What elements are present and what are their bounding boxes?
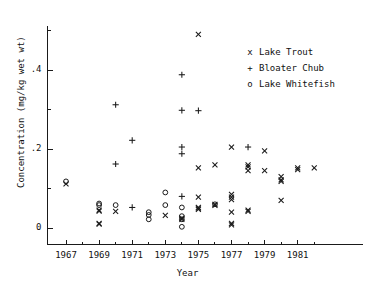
scatter-chart: Concentration (mg/kg wet wt) Year 0.2.4 … bbox=[0, 0, 375, 289]
chart-legend: x Lake Trout + Bloater Chub o Lake White… bbox=[244, 44, 335, 92]
legend-label-lake-trout: Lake Trout bbox=[259, 44, 313, 60]
series-lake-whitefish bbox=[64, 179, 218, 229]
y-tick-label: 0 bbox=[18, 223, 42, 232]
x-tick-label: 1981 bbox=[278, 251, 318, 260]
legend-item-lake-trout: x Lake Trout bbox=[244, 44, 335, 60]
series-bloater-chub bbox=[113, 72, 252, 211]
y-ticks bbox=[48, 31, 53, 229]
x-axis-title: Year bbox=[0, 268, 375, 278]
legend-label-lake-whitefish: Lake Whitefish bbox=[259, 76, 335, 92]
legend-item-lake-whitefish: o Lake Whitefish bbox=[244, 76, 335, 92]
y-tick-label: .4 bbox=[18, 65, 42, 74]
x-ticks bbox=[66, 240, 314, 245]
y-tick-label: .2 bbox=[18, 144, 42, 153]
legend-marker-o: o bbox=[244, 76, 256, 92]
legend-marker-x: x bbox=[244, 44, 256, 60]
legend-label-bloater-chub: Bloater Chub bbox=[259, 60, 324, 76]
legend-marker-plus: + bbox=[244, 60, 256, 76]
y-axis-title: Concentration (mg/kg wet wt) bbox=[16, 58, 26, 188]
legend-item-bloater-chub: + Bloater Chub bbox=[244, 60, 335, 76]
